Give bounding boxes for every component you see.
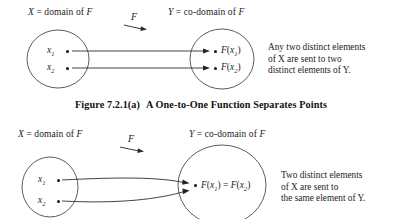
- note-bottom-line-3: the same element of Y.: [281, 193, 365, 205]
- domain-element-2-top: x2: [47, 62, 54, 74]
- image-element-bottom: F(x1) = F(x2): [201, 180, 250, 192]
- note-top-line-3: distinct elements of Y.: [268, 65, 365, 77]
- map-arrowhead-top: [140, 26, 147, 31]
- codomain-element-2-top: F(x2): [221, 62, 241, 74]
- figure-caption-number: Figure 7.2.1(a): [75, 99, 140, 110]
- note-bottom: Two distinct elements of X are sent to t…: [281, 170, 365, 205]
- note-top: Any two distinct elements of X are sent …: [268, 42, 365, 77]
- map-arrow-top: [124, 25, 142, 29]
- map-arrowhead-bottom: [137, 148, 144, 153]
- codomain-element-1-top: F(x1): [221, 45, 241, 57]
- domain-element-1-top: x1: [47, 45, 54, 57]
- domain-element-2-bottom: x2: [38, 195, 45, 207]
- domain-circle-bottom: [22, 157, 78, 217]
- note-top-line-2: of X are sent to two: [268, 54, 365, 66]
- figure-page: X = domain of F Y = co-domain of F F x1: [0, 0, 402, 219]
- domain-element-1-bottom: x1: [38, 174, 45, 186]
- diagram-one-to-one: X = domain of F Y = co-domain of F F x1: [0, 0, 402, 96]
- mapping-arrowhead-1-bottom: [182, 179, 189, 184]
- domain-circle-top: [27, 30, 89, 88]
- figure-caption: Figure 7.2.1(a)A One-to-One Function Sep…: [0, 99, 402, 110]
- mapping-arrowhead-1-top: [203, 48, 210, 53]
- note-bottom-line-1: Two distinct elements: [281, 170, 365, 182]
- map-arrow-bottom: [120, 147, 139, 151]
- mapping-line-1-bottom: [62, 178, 186, 183]
- mapping-line-2-bottom: [62, 191, 186, 202]
- codomain-circle-top: [190, 29, 254, 89]
- note-top-line-1: Any two distinct elements: [268, 42, 365, 54]
- mapping-arrowhead-2-bottom: [182, 188, 189, 194]
- mapping-arrowhead-2-top: [203, 65, 210, 70]
- diagram-not-one-to-one: X = domain of F Y = co-domain of F F x1: [0, 125, 402, 219]
- note-bottom-line-2: of X are sent to: [281, 182, 365, 194]
- figure-caption-text: A One-to-One Function Separates Points: [146, 99, 327, 110]
